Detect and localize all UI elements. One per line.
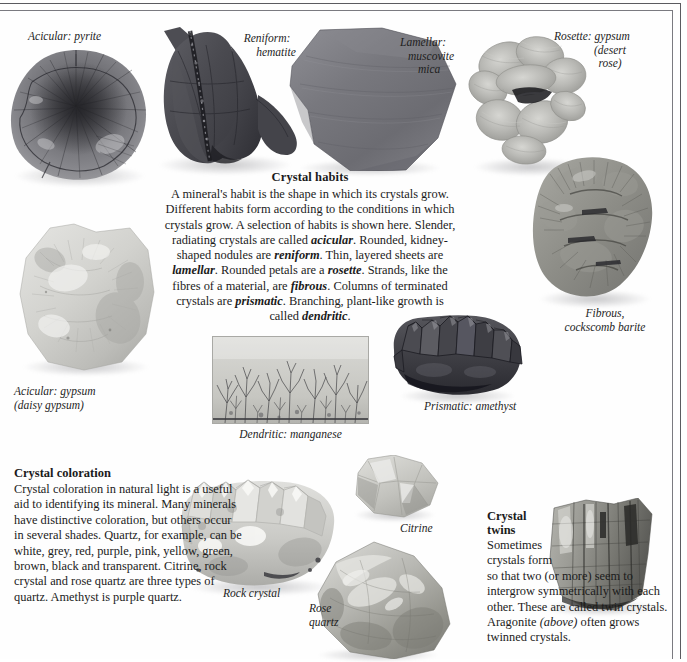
caption-fibrous-line1: Fibrous,	[540, 307, 670, 321]
crystal-coloration-block: Crystal coloration Crystal coloration in…	[14, 466, 242, 605]
caption-prismatic-amethyst: Prismatic: amethyst	[424, 400, 554, 414]
caption-rose-quartz-line1: Rose	[309, 602, 369, 616]
caption-fibrous-barite: Fibrous, cockscomb barite	[540, 307, 670, 334]
caption-fibrous-line2: cockscomb barite	[540, 321, 670, 335]
specimen-rose-quartz-pebble	[310, 540, 455, 659]
caption-rose-quartz: Rose quartz	[309, 602, 369, 629]
caption-rosette-line1: Rosette: gypsum	[554, 30, 656, 44]
crystal-twins-heading-line1: Crystal	[487, 509, 527, 523]
specimen-cockscomb-barite	[524, 150, 669, 300]
crystal-coloration-body: Crystal coloration in natural light is a…	[14, 482, 242, 605]
caption-rosette-line3: rose)	[554, 57, 656, 71]
caption-rosette-gypsum: Rosette: gypsum (desert rose)	[554, 30, 656, 71]
specimen-citrine-crystal	[348, 455, 444, 521]
specimen-pyrite-nodule	[6, 48, 151, 183]
crystal-twins-heading: Crystal twins	[487, 509, 557, 537]
caption-dendritic-manganese: Dendritic: manganese	[213, 428, 368, 442]
caption-citrine: Citrine	[400, 522, 460, 536]
crystal-habits-block: Crystal habits A mineral's habit is the …	[160, 170, 460, 325]
page-border-top-outer	[0, 3, 681, 4]
caption-rosette-line2: (desert	[554, 44, 656, 58]
crystal-coloration-heading: Crystal coloration	[14, 466, 242, 481]
specimen-dendritic-manganese	[212, 336, 369, 424]
page-border-top-inner	[0, 10, 673, 11]
caption-acicular-gypsum-line2: (daisy gypsum)	[14, 399, 154, 413]
crystal-twins-block: Crystal twins Sometimes crystals form so…	[487, 509, 682, 646]
caption-acicular-gypsum: Acicular: gypsum (daisy gypsum)	[14, 385, 154, 412]
caption-rose-quartz-line2: quartz	[309, 616, 369, 630]
crystal-twins-body-narrow: Sometimes crystals form	[487, 538, 565, 569]
caption-acicular-gypsum-line1: Acicular: gypsum	[14, 385, 154, 399]
specimen-daisy-gypsum	[10, 222, 162, 372]
crystal-twins-body: so that two (or more) seem to intergrow …	[487, 569, 682, 646]
crystal-habits-heading: Crystal habits	[160, 170, 460, 185]
caption-acicular-pyrite: Acicular: pyrite	[28, 30, 148, 44]
crystal-twins-heading-line2: twins	[487, 523, 515, 537]
crystal-habits-body: A mineral's habit is the shape in which …	[160, 187, 460, 325]
